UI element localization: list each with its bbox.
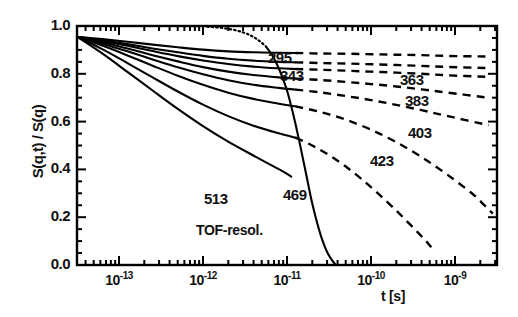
figure-container: S(q,t) / S(q) 1.00.80.60.40.20.0 10-1310…: [0, 0, 518, 317]
curve-label-383: 383: [405, 92, 429, 109]
x-axis-title: t [s]: [381, 288, 405, 304]
y-axis-title: S(q,t) / S(q): [29, 67, 46, 217]
curve-label-513: 513: [204, 190, 228, 207]
x-tick-mantissa: 10: [357, 272, 372, 288]
x-tick-label: 10-10: [345, 270, 397, 288]
x-tick-mantissa: 10: [105, 272, 120, 288]
x-tick-label: 10-12: [177, 270, 229, 288]
curve-label-403: 403: [408, 124, 432, 141]
x-tick-mantissa: 10: [274, 272, 289, 288]
y-tick-label: 0.8: [28, 64, 70, 81]
x-tick-label: 10-13: [93, 270, 145, 288]
y-tick-label: 0.4: [28, 159, 70, 176]
curve-label-423: 423: [370, 152, 394, 169]
curve-label-469: 469: [283, 186, 307, 203]
y-tick-label: 1.0: [28, 16, 70, 33]
curve-label-363: 363: [400, 71, 424, 88]
x-tick-exponent: -10: [372, 270, 385, 281]
curve-label-343: 343: [280, 67, 304, 84]
x-tick-exponent: -11: [288, 270, 300, 281]
x-tick-exponent: -9: [458, 270, 466, 281]
tof-resolution-label: TOF-resol.: [196, 222, 263, 238]
x-tick-label: 10-11: [261, 270, 313, 288]
y-tick-label: 0.2: [28, 207, 70, 224]
x-tick-exponent: -13: [120, 270, 133, 281]
x-tick-mantissa: 10: [444, 272, 459, 288]
x-tick-mantissa: 10: [189, 272, 204, 288]
x-tick-label: 10-9: [429, 270, 481, 288]
curve-label-295: 295: [268, 49, 292, 66]
y-tick-label: 0.6: [28, 112, 70, 129]
y-tick-label: 0.0: [28, 255, 70, 272]
x-tick-exponent: -12: [204, 270, 217, 281]
